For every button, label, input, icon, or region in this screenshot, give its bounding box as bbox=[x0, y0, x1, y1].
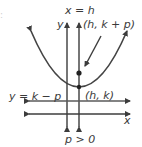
x-axis-label: x bbox=[123, 114, 131, 127]
focus-point bbox=[76, 70, 81, 75]
condition-label: p > 0 bbox=[64, 133, 95, 146]
axis-of-symmetry-label: x = h bbox=[64, 4, 95, 17]
parabola-diagram: : x = h y (h, k + p) y = k − p (h, k) x … bbox=[0, 0, 142, 147]
directrix-label: y = k − p bbox=[8, 90, 61, 103]
focus-leader-arrow bbox=[85, 36, 101, 66]
y-axis-label: y bbox=[56, 18, 64, 31]
vertex-point bbox=[77, 85, 81, 89]
stray-mark: : bbox=[0, 10, 3, 20]
vertex-label: (h, k) bbox=[85, 89, 114, 102]
focus-label: (h, k + p) bbox=[83, 18, 135, 31]
